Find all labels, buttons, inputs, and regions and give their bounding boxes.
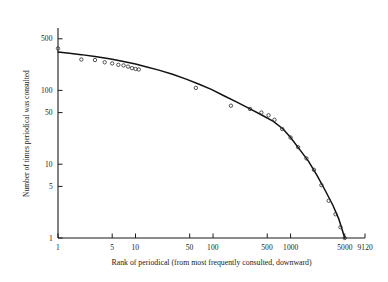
rank-frequency-log-log-plot [0,0,388,282]
x-tick-label: 5 [110,243,114,252]
y-tick-label: 5 [49,182,53,191]
x-tick-label: 100 [207,243,219,252]
x-tick-label: 50 [186,243,194,252]
y-tick-label: 10 [45,160,53,169]
y-tick-label: 500 [41,34,53,43]
x-tick-label: 500 [261,243,273,252]
x-axis-title: Rank of periodical (from most frequently… [112,258,312,267]
y-tick-label: 50 [45,108,53,117]
x-tick-label: 10 [132,243,140,252]
x-tick-label: 1000 [283,243,298,252]
y-tick-label: 100 [41,86,53,95]
x-tick-label: 5000 [337,243,352,252]
x-tick-label: 1 [56,243,60,252]
y-axis-title: Number of times periodical was consulted [22,70,31,197]
x-tick-label: 9120 [358,243,373,252]
y-tick-label: 1 [49,234,53,243]
chart-figure: Number of times periodical was consulted… [0,0,388,282]
